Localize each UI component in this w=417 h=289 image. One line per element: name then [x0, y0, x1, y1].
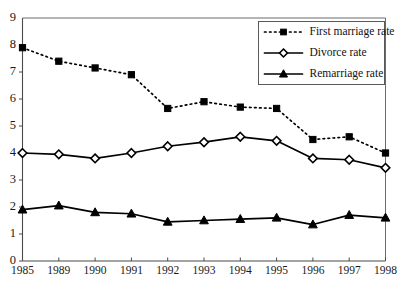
- data-point-square: [19, 45, 25, 51]
- legend-label: Divorce rate: [310, 46, 367, 58]
- data-point-diamond: [163, 142, 172, 151]
- x-tick-label: 1994: [229, 264, 252, 276]
- data-point-diamond: [200, 138, 209, 147]
- data-point-square: [382, 150, 388, 156]
- x-axis-ticks: 1985198919901991199219931994199519961997…: [11, 258, 397, 277]
- data-point-square: [237, 104, 243, 110]
- data-point-square: [128, 72, 134, 78]
- data-point-triangle: [345, 211, 354, 219]
- data-point-square: [92, 65, 98, 71]
- data-point-diamond: [91, 154, 100, 163]
- x-tick-label: 1990: [84, 264, 107, 276]
- x-tick-label: 1989: [47, 264, 70, 276]
- data-point-diamond: [18, 149, 27, 158]
- data-point-square: [310, 136, 316, 142]
- y-tick-label: 5: [10, 118, 16, 132]
- line-chart: 0123456789 19851989199019911992199319941…: [0, 0, 417, 289]
- data-point-diamond: [345, 155, 354, 164]
- series-remarriage-rate: [18, 201, 390, 228]
- y-tick-label: 3: [10, 172, 16, 186]
- legend-label: First marriage rate: [310, 25, 395, 38]
- y-tick-label: 7: [10, 64, 16, 78]
- data-point-square: [56, 58, 62, 64]
- x-tick-label: 1985: [11, 264, 34, 276]
- data-point-square: [274, 105, 280, 111]
- data-point-diamond: [236, 133, 245, 142]
- data-point-diamond: [55, 150, 64, 159]
- data-point-diamond: [272, 137, 281, 146]
- data-point-diamond: [381, 164, 390, 173]
- y-tick-label: 6: [10, 91, 16, 105]
- chart-legend: First marriage rateDivorce rateRemarriag…: [259, 22, 395, 85]
- data-point-diamond: [127, 149, 136, 158]
- y-tick-label: 8: [10, 37, 16, 51]
- data-point-square: [165, 105, 171, 111]
- x-tick-label: 1991: [120, 264, 143, 276]
- y-tick-label: 1: [10, 226, 16, 240]
- x-tick-label: 1995: [265, 264, 288, 276]
- data-point-triangle: [54, 201, 63, 209]
- x-tick-label: 1997: [338, 264, 361, 276]
- x-tick-label: 1998: [374, 264, 397, 276]
- data-point-square: [346, 134, 352, 140]
- x-tick-label: 1996: [301, 264, 324, 276]
- x-tick-label: 1993: [193, 264, 216, 276]
- data-point-diamond: [309, 154, 318, 163]
- legend-label: Remarriage rate: [310, 67, 384, 80]
- data-point-square: [281, 29, 287, 35]
- y-tick-label: 4: [10, 145, 17, 159]
- y-tick-label: 9: [10, 10, 16, 24]
- chart-container: 0123456789 19851989199019911992199319941…: [0, 0, 417, 289]
- x-tick-label: 1992: [156, 264, 179, 276]
- y-tick-label: 2: [10, 199, 16, 213]
- data-point-square: [201, 99, 207, 105]
